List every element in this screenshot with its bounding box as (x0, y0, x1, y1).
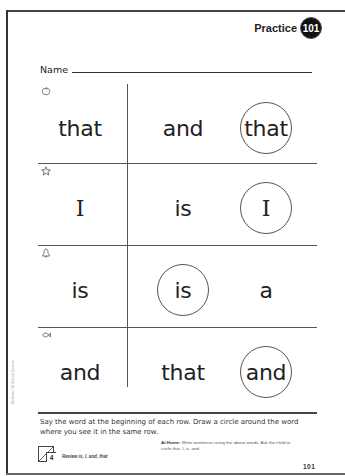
target-word: is (40, 270, 120, 310)
exercise-row-4: and that and (38, 328, 317, 410)
choice-word[interactable]: a (226, 270, 306, 310)
exercise-row-3: is is a (38, 246, 317, 328)
name-input-line[interactable] (72, 72, 312, 73)
review-number: 4 (46, 452, 56, 462)
choice-word[interactable]: that (143, 352, 223, 392)
star-icon (41, 166, 51, 176)
at-home-text: Write sentences using the above words. A… (161, 440, 290, 451)
practice-label: Practice (254, 22, 297, 34)
fish-icon (41, 330, 51, 340)
practice-header: Practice 101 (254, 17, 322, 39)
choice-word-circled[interactable]: and (226, 352, 306, 392)
choice-word[interactable]: is (143, 188, 223, 228)
choice-word-circled[interactable]: I (226, 188, 306, 228)
answer-circle (240, 346, 292, 398)
at-home-note: At Home: Write sentences using the above… (161, 440, 301, 452)
exercise-row-1: that and that (38, 84, 317, 166)
exercise-row-2: I is I (38, 164, 317, 246)
choice-word[interactable]: and (143, 108, 223, 148)
at-home-label: At Home: (161, 440, 181, 445)
practice-number-badge: 101 (300, 17, 322, 39)
page-frame-bottom (6, 473, 345, 475)
target-word: I (40, 188, 120, 228)
instructions-divider (38, 412, 317, 414)
name-field-row: Name (40, 64, 312, 75)
name-label: Name (40, 64, 68, 75)
page-frame-top (6, 10, 345, 12)
choice-word-circled[interactable]: that (226, 108, 306, 148)
page-frame-left (6, 10, 8, 475)
answer-circle (240, 182, 292, 234)
bell-icon (41, 248, 51, 258)
answer-circle (240, 102, 292, 154)
publisher-credit: McGraw-Hill School Division (11, 360, 15, 404)
instructions-text: Say the word at the beginning of each ro… (40, 418, 320, 437)
page-number: 101 (303, 463, 315, 470)
review-text: Review is, I, and, that (62, 454, 108, 459)
answer-circle (157, 264, 209, 316)
apple-icon (41, 86, 51, 96)
target-word: and (40, 352, 120, 392)
choice-word-circled[interactable]: is (143, 270, 223, 310)
target-word: that (40, 108, 120, 148)
